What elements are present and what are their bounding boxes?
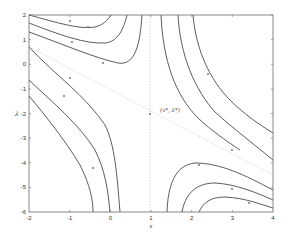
x-axis: -2 -1 0 1 2 3 4 x bbox=[26, 15, 275, 229]
y-axis-label: λ bbox=[14, 110, 19, 117]
x-tick-label: 2 bbox=[190, 215, 194, 221]
x-tick-label: 4 bbox=[271, 215, 275, 221]
y-tick-label: 1 bbox=[23, 37, 27, 43]
saddle-point-marker bbox=[149, 113, 151, 115]
contour-labels bbox=[63, 20, 250, 204]
saddle-point-label: (x*, λ*) bbox=[160, 107, 180, 113]
y-tick-label: 0 bbox=[23, 61, 27, 67]
x-tick-label: 1 bbox=[149, 215, 153, 221]
diagonal-guide-line bbox=[29, 47, 273, 175]
contour-plot: (x*, λ*) 2 1 0 -1 -2 -3 -4 -5 -6 λ bbox=[0, 0, 289, 235]
x-tick-label: 0 bbox=[109, 215, 113, 221]
y-tick-label: -3 bbox=[21, 135, 27, 141]
y-tick-label: 2 bbox=[23, 12, 27, 18]
y-axis: 2 1 0 -1 -2 -3 -4 -5 -6 λ bbox=[14, 12, 273, 215]
y-tick-label: -1 bbox=[21, 86, 27, 92]
y-tick-label: -4 bbox=[21, 160, 27, 166]
y-tick-label: -2 bbox=[21, 111, 27, 117]
y-tick-label: -5 bbox=[21, 184, 27, 190]
plot-frame bbox=[29, 15, 273, 212]
contours-upper-right bbox=[161, 15, 273, 160]
x-tick-label: -1 bbox=[67, 215, 73, 221]
x-axis-label: x bbox=[149, 222, 153, 229]
contours-lower-left bbox=[29, 47, 120, 212]
contours-lower-right bbox=[167, 163, 273, 212]
x-tick-label: -2 bbox=[26, 215, 32, 221]
x-tick-label: 3 bbox=[231, 215, 235, 221]
